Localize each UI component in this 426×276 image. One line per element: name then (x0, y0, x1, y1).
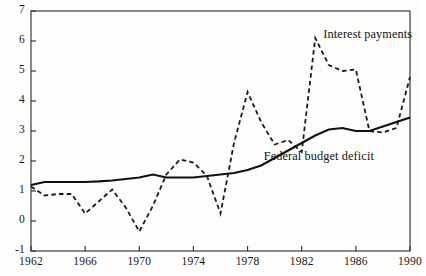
y-tick-label: 4 (3, 93, 25, 105)
x-tick-label: 1986 (333, 255, 379, 267)
x-tick-label: 1962 (8, 255, 54, 267)
y-tick-label: 5 (3, 63, 25, 75)
y-tick-label: 3 (3, 123, 25, 135)
y-tick-label: 0 (3, 213, 25, 225)
x-tick-label: 1990 (387, 255, 426, 267)
y-tick-label: 1 (3, 183, 25, 195)
series-annotation-1: Interest payments (323, 27, 412, 42)
series-line-1 (31, 38, 410, 232)
x-tick-label: 1982 (279, 255, 325, 267)
y-tick-label: -1 (3, 243, 25, 255)
y-tick-label: 6 (3, 33, 25, 45)
x-tick-label: 1974 (170, 255, 216, 267)
series-annotation-2: Federal budget deficit (264, 149, 374, 164)
x-tick-label: 1966 (62, 255, 108, 267)
x-tick-label: 1978 (225, 255, 271, 267)
y-tick-label: 7 (3, 3, 25, 15)
x-tick-label: 1970 (116, 255, 162, 267)
y-tick-label: 2 (3, 153, 25, 165)
